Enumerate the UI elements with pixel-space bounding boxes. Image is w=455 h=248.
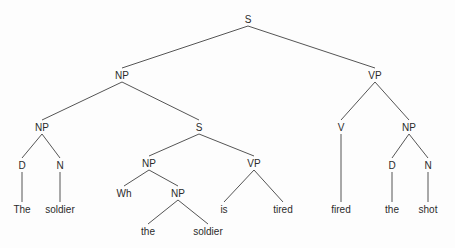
tree-edge [149, 170, 178, 186]
terminal-node-t-the1: The [12, 204, 31, 215]
tree-edge [254, 170, 283, 202]
tree-node-s-rel: S [195, 122, 204, 133]
tree-edge [148, 200, 178, 224]
tree-node-s-root: S [244, 14, 253, 25]
tree-node-n-subj: N [55, 160, 64, 171]
tree-edge [392, 134, 409, 158]
tree-edge [122, 82, 199, 120]
tree-node-n-obj: N [423, 160, 432, 171]
tree-node-vp-rel: VP [246, 158, 261, 169]
tree-edge [199, 134, 254, 156]
tree-node-d-obj: D [387, 160, 396, 171]
tree-node-vp-main: VP [367, 70, 382, 81]
tree-edge [124, 170, 149, 186]
tree-edge [149, 134, 199, 156]
tree-edge [224, 170, 254, 202]
terminal-node-t-soldier1: soldier [44, 204, 75, 215]
tree-node-d-subj: D [17, 160, 26, 171]
syntax-tree-diagram: SNPVPNPSVNPDNNPVPDNWhNPThesoldieristired… [0, 0, 455, 248]
terminal-node-t-shot: shot [418, 204, 439, 215]
tree-edge [42, 134, 60, 158]
tree-node-wh: Wh [116, 188, 133, 199]
tree-node-np-obj: NP [401, 122, 417, 133]
tree-edge [409, 134, 428, 158]
terminal-node-t-tired: tired [272, 204, 293, 215]
tree-edge [122, 26, 248, 68]
tree-edge [42, 82, 122, 120]
tree-node-np-trace: NP [170, 188, 186, 199]
terminal-node-t-is: is [219, 204, 228, 215]
terminal-node-t-soldier2: soldier [192, 226, 223, 237]
tree-edge [178, 200, 208, 224]
terminal-node-t-fired: fired [330, 204, 351, 215]
tree-node-v-main: V [337, 122, 346, 133]
tree-edge [248, 26, 375, 68]
tree-node-np-subj: NP [114, 70, 130, 81]
tree-node-np-head: NP [34, 122, 50, 133]
tree-edge [341, 82, 375, 120]
tree-node-np-rel: NP [141, 158, 157, 169]
terminal-node-t-the2: the [384, 204, 400, 215]
tree-edge [22, 134, 42, 158]
tree-edge [375, 82, 409, 120]
terminal-node-t-the3: the [140, 226, 156, 237]
